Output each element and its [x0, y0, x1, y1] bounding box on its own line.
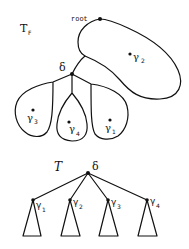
stem-edge [72, 56, 85, 74]
subtree-gamma3: γ 3 [99, 197, 121, 236]
edge-gamma4 [88, 173, 147, 200]
gamma1-node [31, 198, 35, 202]
gamma3-sub: 3 [34, 118, 38, 125]
tf-title: T [20, 22, 28, 35]
delta-label: δ [59, 61, 66, 74]
gamma1-sub: 1 [112, 128, 116, 135]
gamma4-node [145, 198, 149, 202]
gamma3-node-sub: 3 [117, 203, 121, 210]
tree-diagram: T F root γ 2 δ γ 3 γ 4 γ 1 T δ [0, 0, 189, 249]
gamma2-point [128, 52, 131, 55]
gamma3-label: γ [27, 112, 33, 123]
top-figure: T F root γ 2 δ γ 3 γ 4 γ 1 [15, 15, 180, 141]
gamma4-node-sub: 4 [156, 202, 160, 209]
tf-title-sub: F [28, 29, 32, 36]
gamma2-node-sub: 2 [79, 203, 83, 210]
gamma4-sub: 4 [76, 130, 80, 137]
t-root-label: δ [92, 160, 99, 173]
gamma2-label: γ [133, 51, 139, 62]
big-lobe-outline [78, 19, 181, 99]
gamma1-node-sub: 1 [42, 206, 46, 213]
root-label: root [71, 15, 88, 23]
subtree-gamma1: γ 1 [23, 198, 46, 236]
gamma3-node [106, 198, 110, 202]
lobe-gamma1 [72, 74, 128, 139]
root-node [98, 17, 102, 21]
subtree-gamma2: γ 2 [61, 197, 83, 236]
edge-gamma1 [33, 173, 88, 200]
gamma4-label: γ [69, 123, 75, 134]
gamma1-label: γ [105, 122, 111, 133]
gamma2-node [68, 198, 72, 202]
subtree-gamma4: γ 4 [138, 196, 160, 236]
t-title: T [54, 160, 63, 174]
gamma2-sub: 2 [141, 57, 145, 64]
bottom-figure: T δ γ 1 γ 2 γ 3 [23, 160, 160, 236]
